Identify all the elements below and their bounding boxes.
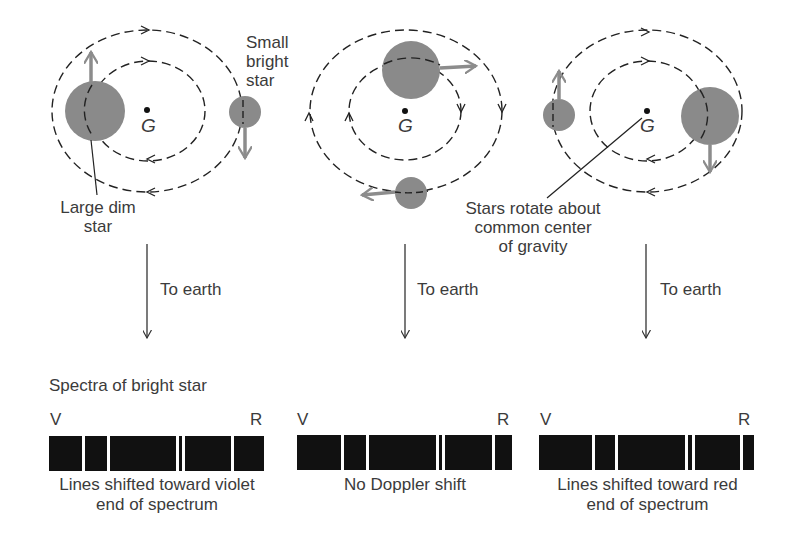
- small-bright-star: [543, 99, 575, 131]
- spectral-line: [366, 435, 369, 470]
- to-earth-label: To earth: [417, 280, 478, 300]
- violet-label: V: [50, 410, 61, 430]
- red-label: R: [250, 410, 262, 430]
- orbit-direction-icon: [147, 155, 155, 163]
- common-center-label: Stars rotate about common center of grav…: [450, 199, 616, 256]
- spectral-line: [341, 435, 344, 470]
- spectral-line: [615, 435, 618, 470]
- to-earth-label: To earth: [660, 280, 721, 300]
- panel-1-orbits: [52, 26, 261, 196]
- spectral-line: [692, 435, 695, 470]
- velocity-arrow-right: [440, 66, 476, 68]
- orbit-direction-icon: [641, 28, 649, 36]
- center-label-g: G: [640, 115, 655, 137]
- orbit-direction-icon: [647, 155, 655, 163]
- spectral-line: [442, 435, 445, 470]
- center-label-g: G: [141, 115, 156, 137]
- spectral-line: [182, 436, 185, 471]
- center-of-gravity-dot: [402, 108, 408, 114]
- caption-red-shift: Lines shifted toward red end of spectrum: [530, 475, 765, 515]
- spectral-line: [82, 436, 85, 471]
- spectrum-bar-red-shift: [539, 435, 754, 470]
- spectra-title: Spectra of bright star: [49, 376, 207, 396]
- violet-label: V: [540, 410, 551, 430]
- large-dim-star: [65, 81, 125, 141]
- caption-violet-shift: Lines shifted toward violet end of spect…: [26, 475, 288, 515]
- spectral-line: [231, 436, 234, 471]
- spectral-line: [685, 435, 688, 470]
- center-of-gravity-dot: [144, 107, 150, 113]
- spectrum-bar-violet-shift: [49, 436, 264, 471]
- red-label: R: [497, 410, 509, 430]
- spectral-line: [107, 436, 110, 471]
- panel-3-orbits: [543, 28, 742, 198]
- spectral-line: [592, 435, 595, 470]
- violet-label: V: [297, 410, 308, 430]
- spectral-line: [492, 435, 495, 470]
- center-of-gravity-dot: [644, 108, 650, 114]
- center-label-g: G: [398, 115, 413, 137]
- large-dim-star: [681, 87, 739, 145]
- spectral-line: [740, 435, 743, 470]
- velocity-arrow-left: [362, 192, 395, 195]
- spectral-line: [176, 436, 179, 471]
- spectrum-bar-no-shift: [297, 435, 512, 470]
- caption-no-shift: No Doppler shift: [300, 475, 510, 495]
- large-dim-star: [382, 41, 440, 99]
- small-bright-star: [229, 96, 261, 128]
- to-earth-label: To earth: [160, 280, 221, 300]
- large-dim-star-label: Large dim star: [48, 198, 148, 236]
- red-label: R: [738, 410, 750, 430]
- leader-line: [91, 140, 97, 195]
- spectral-line: [436, 435, 439, 470]
- small-bright-star-label: Small bright star: [246, 33, 289, 90]
- orbit-direction-icon: [641, 57, 649, 65]
- orbit-direction-icon: [305, 113, 313, 121]
